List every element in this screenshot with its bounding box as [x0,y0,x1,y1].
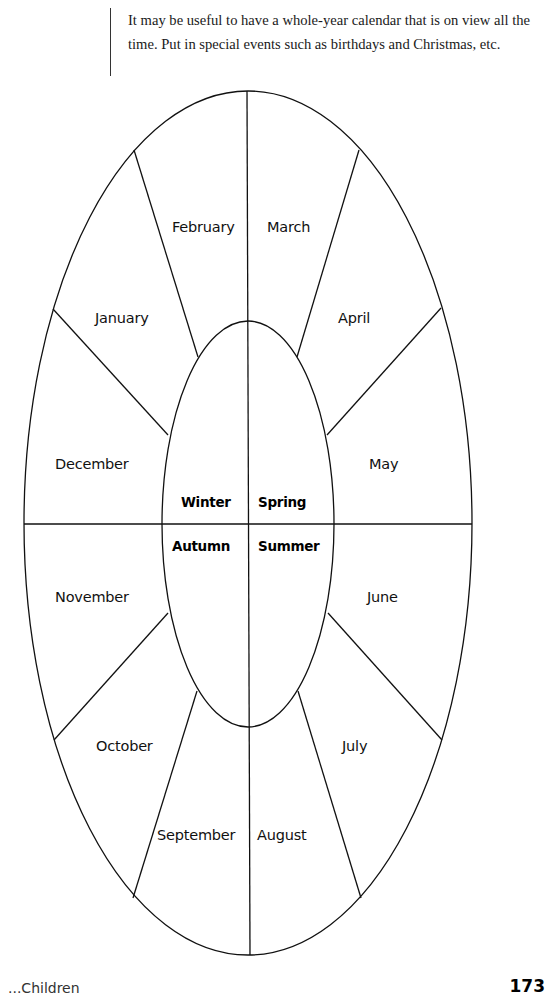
month-label-february: February [172,219,235,235]
month-label-july: July [342,738,367,754]
month-label-september: September [157,827,235,843]
month-label-october: October [96,738,153,754]
month-label-november: November [55,589,129,605]
month-label-march: March [267,219,310,235]
month-label-january: January [95,310,149,326]
divider-nov-oct [54,613,168,740]
season-label-spring: Spring [258,494,306,510]
divider-apr-may [327,308,441,435]
vertical-divider [247,91,250,955]
divider-jul-aug [298,691,361,898]
footer-running-title: ...Children [8,980,80,996]
month-label-june: June [367,589,398,605]
divider-dec-jan [53,309,168,435]
month-label-may: May [369,456,398,472]
season-label-summer: Summer [258,538,319,554]
month-label-august: August [257,827,307,843]
month-label-december: December [55,456,129,472]
page-number: 173 [510,976,545,996]
month-label-april: April [338,310,370,326]
season-label-winter: Winter [181,494,231,510]
season-label-autumn: Autumn [172,538,230,554]
divider-oct-sep [133,691,197,898]
divider-jun-jul [328,613,442,740]
